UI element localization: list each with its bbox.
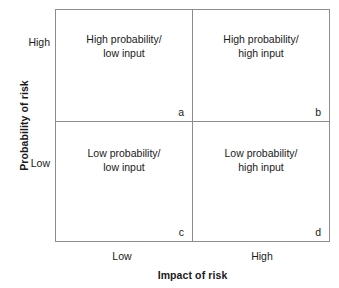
quadrant-d: Low probability/ high input d — [193, 122, 329, 241]
matrix-plot-area: High probability/ low input a High proba… — [55, 9, 330, 242]
quadrant-b-label: High probability/ high input — [193, 32, 329, 60]
quadrant-a: High probability/ low input a — [56, 10, 193, 122]
quadrant-d-marker: d — [315, 226, 321, 238]
quadrant-d-label: Low probability/ high input — [193, 146, 329, 174]
risk-matrix-figure: Probability of risk High Low High probab… — [0, 0, 339, 288]
quadrant-b: High probability/ high input b — [193, 10, 329, 122]
x-axis-tick-high: High — [222, 250, 302, 262]
quadrant-c: Low probability/ low input c — [56, 122, 193, 241]
y-axis-tick-high: High — [22, 36, 50, 48]
quadrant-a-marker: a — [178, 106, 184, 118]
quadrant-c-label: Low probability/ low input — [56, 146, 192, 174]
x-axis-tick-low: Low — [82, 250, 162, 262]
quadrant-c-marker: c — [179, 226, 184, 238]
quadrant-b-marker: b — [315, 106, 321, 118]
y-axis-tick-low: Low — [22, 157, 50, 169]
quadrant-a-label: High probability/ low input — [56, 32, 192, 60]
x-axis-title: Impact of risk — [55, 269, 330, 282]
